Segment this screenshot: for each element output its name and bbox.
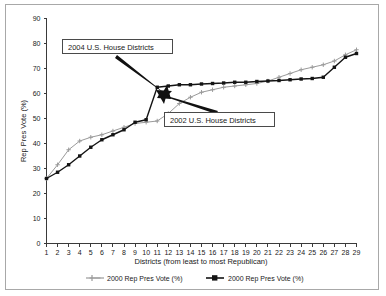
x-tick-label: 5 <box>89 249 93 256</box>
data-point-marker <box>178 83 181 86</box>
x-tick-label: 24 <box>297 249 305 256</box>
legend-marker-square-icon <box>212 275 217 280</box>
x-tick-label: 2 <box>56 249 60 256</box>
x-tick-label: 22 <box>275 249 283 256</box>
data-point-marker <box>189 83 192 86</box>
callout-label-2002: 2002 U.S. House Districts <box>170 116 256 125</box>
y-tick-label: 70 <box>33 65 41 72</box>
data-point-marker <box>188 95 192 99</box>
x-tick-label: 1 <box>45 249 49 256</box>
x-tick-label: 16 <box>209 249 217 256</box>
data-point-marker <box>144 118 147 121</box>
data-point-marker <box>67 163 70 166</box>
y-axis-title: Rep Pres Vote (%) <box>19 99 28 162</box>
x-tick-label: 19 <box>242 249 250 256</box>
data-point-marker <box>56 171 59 174</box>
x-tick-label: 14 <box>187 249 195 256</box>
data-point-marker <box>122 128 125 131</box>
data-point-marker <box>78 154 81 157</box>
data-point-marker <box>100 133 104 137</box>
data-point-marker <box>355 52 358 55</box>
legend-item-series-b: 2000 Rep Pres Vote (%) <box>206 275 304 283</box>
x-tick-label: 10 <box>142 249 150 256</box>
data-point-marker <box>354 48 358 52</box>
x-tick-label: 28 <box>342 249 350 256</box>
data-point-marker <box>233 84 237 88</box>
data-point-marker <box>133 121 136 124</box>
x-tick-label: 21 <box>264 249 272 256</box>
data-point-marker <box>332 59 336 63</box>
y-axis-ticks: 0102030405060708090 <box>33 15 47 247</box>
x-axis-title: Districts (from least to most Republican… <box>135 257 268 266</box>
chart-canvas: 0102030405060708090 12345678910111213141… <box>0 0 386 296</box>
arrow-2002-icon <box>156 90 218 114</box>
data-point-marker <box>111 133 114 136</box>
x-tick-label: 11 <box>154 249 161 256</box>
data-point-marker <box>199 90 203 94</box>
x-tick-label: 25 <box>308 249 316 256</box>
x-tick-label: 7 <box>111 249 115 256</box>
x-tick-label: 12 <box>164 249 172 256</box>
x-tick-label: 13 <box>175 249 183 256</box>
data-point-marker <box>288 71 292 75</box>
data-point-marker <box>200 82 203 85</box>
x-tick-label: 6 <box>100 249 104 256</box>
x-tick-label: 29 <box>353 249 361 256</box>
data-point-marker <box>333 66 336 69</box>
data-point-marker <box>321 63 325 67</box>
data-point-marker <box>100 138 103 141</box>
y-tick-label: 10 <box>33 215 41 222</box>
y-tick-label: 60 <box>33 90 41 97</box>
y-tick-label: 20 <box>33 190 41 197</box>
chart-legend: 2000 Rep Pres Vote (%) 2000 Rep Pres Vot… <box>86 275 304 283</box>
data-point-marker <box>111 129 115 133</box>
data-point-marker <box>89 135 93 139</box>
data-point-marker <box>211 82 214 85</box>
data-point-marker <box>299 68 303 72</box>
line-chart: 0102030405060708090 12345678910111213141… <box>0 0 386 296</box>
chart-screenshot: 0102030405060708090 12345678910111213141… <box>0 0 386 296</box>
x-axis-ticks: 1234567891011121314151617181920212223242… <box>45 244 361 256</box>
x-tick-label: 15 <box>198 249 206 256</box>
data-point-marker <box>244 81 247 84</box>
legend-item-series-a: 2000 Rep Pres Vote (%) <box>86 275 183 283</box>
y-tick-label: 40 <box>33 140 41 147</box>
data-point-marker <box>266 79 269 82</box>
legend-label-series-a: 2000 Rep Pres Vote (%) <box>107 275 183 283</box>
x-tick-label: 20 <box>253 249 261 256</box>
data-point-marker <box>222 81 225 84</box>
y-tick-label: 30 <box>33 165 41 172</box>
callout-label-2004: 2004 U.S. House Districts <box>68 43 154 52</box>
x-tick-label: 9 <box>133 249 137 256</box>
legend-label-series-b: 2000 Rep Pres Vote (%) <box>228 275 304 283</box>
data-point-marker <box>255 80 258 83</box>
data-point-marker <box>221 85 225 89</box>
data-point-marker <box>89 146 92 149</box>
x-tick-label: 26 <box>319 249 327 256</box>
x-tick-label: 3 <box>67 249 71 256</box>
data-point-marker <box>277 75 281 79</box>
data-point-marker <box>311 77 314 80</box>
data-point-marker <box>233 81 236 84</box>
data-point-marker <box>322 76 325 79</box>
y-tick-label: 0 <box>37 240 41 247</box>
legend-marker-cross-icon <box>90 275 101 281</box>
data-point-marker <box>344 56 347 59</box>
data-point-marker <box>299 77 302 80</box>
x-tick-label: 8 <box>122 249 126 256</box>
x-tick-label: 17 <box>220 249 228 256</box>
y-tick-label: 80 <box>33 40 41 47</box>
y-tick-label: 50 <box>33 115 41 122</box>
x-tick-label: 4 <box>78 249 82 256</box>
data-point-marker <box>277 79 280 82</box>
x-tick-label: 18 <box>231 249 239 256</box>
data-point-marker <box>210 88 214 92</box>
x-tick-label: 23 <box>286 249 294 256</box>
data-point-marker <box>45 177 48 180</box>
y-tick-label: 90 <box>33 15 41 22</box>
data-point-marker <box>288 78 291 81</box>
data-point-marker <box>310 65 314 69</box>
x-tick-label: 27 <box>330 249 338 256</box>
